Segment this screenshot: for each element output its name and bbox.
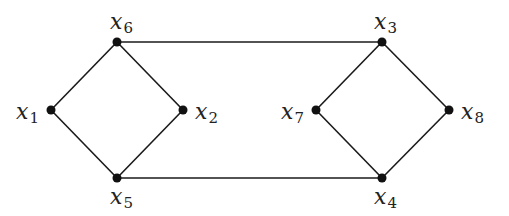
edges-group	[51, 42, 449, 178]
node-x2	[179, 106, 188, 115]
label-x4: x4	[374, 184, 397, 212]
label-x1: x1	[16, 99, 39, 127]
label-x8: x8	[461, 99, 484, 127]
label-x5: x5	[110, 184, 133, 212]
label-x6: x6	[110, 9, 133, 37]
node-x8	[445, 106, 454, 115]
edge-x1-x5	[51, 110, 117, 178]
label-x3: x3	[374, 9, 397, 37]
edge-x6-x2	[117, 42, 183, 110]
labels-group: x1x2x3x4x5x6x7x8	[16, 9, 484, 212]
edge-x7-x4	[316, 110, 382, 178]
graph-diagram: x1x2x3x4x5x6x7x8	[0, 0, 509, 216]
node-x3	[378, 38, 387, 47]
node-x1	[47, 106, 56, 115]
edge-x2-x5	[117, 110, 183, 178]
node-x7	[312, 106, 321, 115]
nodes-group	[47, 38, 454, 183]
edge-x8-x4	[382, 110, 449, 178]
edge-x3-x8	[382, 42, 449, 110]
edge-x3-x7	[316, 42, 382, 110]
edge-x6-x1	[51, 42, 117, 110]
label-x2: x2	[195, 99, 218, 127]
label-x7: x7	[281, 99, 304, 127]
node-x6	[113, 38, 122, 47]
node-x4	[378, 174, 387, 183]
node-x5	[113, 174, 122, 183]
